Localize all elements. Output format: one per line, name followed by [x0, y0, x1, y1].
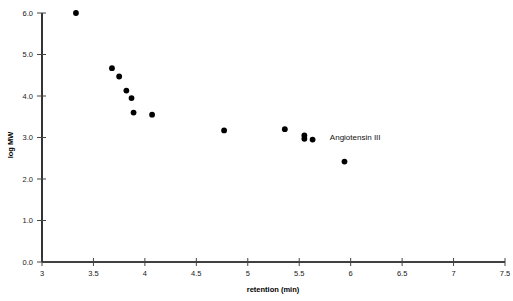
y-tick-label: 1.0 [23, 216, 33, 225]
y-tick-label: 4.0 [23, 92, 33, 101]
scatter-chart: 0.01.02.03.04.05.06.0 33.544.555.566.577… [0, 0, 513, 301]
data-point [73, 10, 79, 16]
y-tick-label: 6.0 [23, 9, 33, 18]
data-point-annotation: Angiotensin III [330, 133, 381, 142]
x-tick-label: 5 [246, 269, 250, 278]
data-point [221, 128, 227, 134]
y-tick-label: 5.0 [23, 50, 33, 59]
x-tick-label: 4 [143, 269, 147, 278]
x-tick-label: 5.5 [294, 269, 304, 278]
x-tick-label: 3 [40, 269, 44, 278]
data-point [131, 110, 137, 116]
data-point [149, 112, 155, 118]
x-tick-label: 4.5 [191, 269, 201, 278]
chart-canvas: 0.01.02.03.04.05.06.0 33.544.555.566.577… [0, 0, 513, 301]
x-tick-label: 7 [451, 269, 455, 278]
data-point-group [73, 10, 347, 164]
data-point [116, 74, 122, 80]
x-axis-title: retention (min) [247, 285, 300, 294]
data-point [123, 88, 129, 94]
y-tick-label: 3.0 [23, 133, 33, 142]
y-tick-label: 2.0 [23, 175, 33, 184]
data-point [129, 95, 135, 101]
x-tick-label: 3.5 [88, 269, 98, 278]
x-axis-ticks: 33.544.555.566.577.5 [40, 258, 510, 278]
x-tick-label: 6 [349, 269, 353, 278]
y-tick-label: 0.0 [23, 258, 33, 267]
axes-group [42, 13, 505, 262]
x-tick-label: 7.5 [500, 269, 510, 278]
data-point [342, 159, 348, 165]
x-tick-label: 6.5 [397, 269, 407, 278]
data-point [109, 65, 115, 71]
data-point [282, 126, 288, 132]
annotation-group: Angiotensin III [330, 133, 381, 142]
y-axis-title: log MW [6, 131, 15, 159]
data-point [301, 136, 307, 142]
data-point [310, 137, 316, 143]
